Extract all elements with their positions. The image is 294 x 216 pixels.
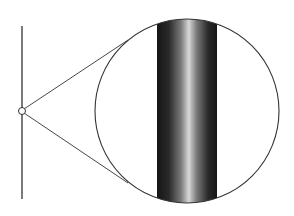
magnified-wire-band [157,0,217,216]
magnification-diagram [0,0,294,216]
focus-point-marker [19,108,26,115]
callout-line-upper [24,40,128,109]
magnified-content [157,0,217,216]
callout-line-lower [24,113,128,183]
